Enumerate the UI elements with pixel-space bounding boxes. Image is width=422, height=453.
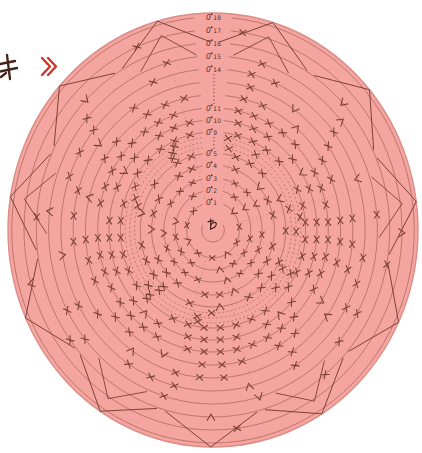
slip-stitch-dot: [211, 13, 213, 15]
chain-symbol: 0: [206, 149, 211, 158]
chain-symbol: 0: [206, 39, 211, 48]
round-number: 9: [213, 129, 217, 136]
round-number: 10: [213, 117, 221, 124]
slip-stitch-dot: [211, 186, 213, 188]
chain-symbol: 0: [206, 26, 211, 35]
round-number: 3: [213, 175, 217, 182]
chain-symbol: 0: [206, 128, 211, 137]
double-angle-chevron-icon: [42, 58, 56, 75]
chain-symbol: 0: [206, 104, 211, 113]
chain-symbol: 0: [206, 13, 211, 22]
clipped-text-fragment: [0, 55, 17, 79]
round-label-10: 010: [206, 116, 221, 125]
slip-stitch-dot: [211, 174, 213, 176]
round-number: 1: [213, 199, 217, 206]
round-number: 16: [213, 40, 221, 47]
slip-stitch-dot: [211, 26, 213, 28]
slip-stitch-dot: [211, 39, 213, 41]
round-number: 17: [213, 27, 221, 34]
chain-symbol: 0: [206, 116, 211, 125]
round-number: 4: [213, 162, 217, 169]
chain-symbol: 0: [206, 161, 211, 170]
round-label-11: 011: [206, 104, 221, 113]
round-label-18: 018: [206, 13, 221, 22]
crochet-chart-svg: 010203040509010011014015016017018: [0, 0, 422, 453]
chain-symbol: 0: [206, 65, 211, 74]
pattern-disc: [8, 13, 418, 447]
round-number: 2: [213, 187, 217, 194]
slip-stitch-dot: [211, 149, 213, 151]
round-number: 15: [213, 53, 221, 60]
round-number: 5: [213, 150, 217, 157]
chain-symbol: 0: [206, 52, 211, 61]
round-number: 18: [213, 14, 221, 21]
round-number: 14: [213, 66, 221, 73]
slip-stitch-dot: [211, 65, 213, 67]
crochet-pattern-page: 010203040509010011014015016017018: [0, 0, 422, 453]
slip-stitch-dot: [211, 52, 213, 54]
chain-symbol: 0: [206, 198, 211, 207]
slip-stitch-dot: [211, 104, 213, 106]
slip-stitch-dot: [211, 116, 213, 118]
slip-stitch-dot: [211, 161, 213, 163]
round-label-14: 014: [206, 65, 221, 74]
chain-symbol: 0: [206, 186, 211, 195]
round-label-17: 017: [206, 26, 221, 35]
slip-stitch-dot: [211, 128, 213, 130]
round-number: 11: [213, 105, 221, 112]
slip-stitch-dot: [211, 198, 213, 200]
round-label-16: 016: [206, 39, 221, 48]
chain-symbol: 0: [206, 174, 211, 183]
round-label-15: 015: [206, 52, 221, 61]
